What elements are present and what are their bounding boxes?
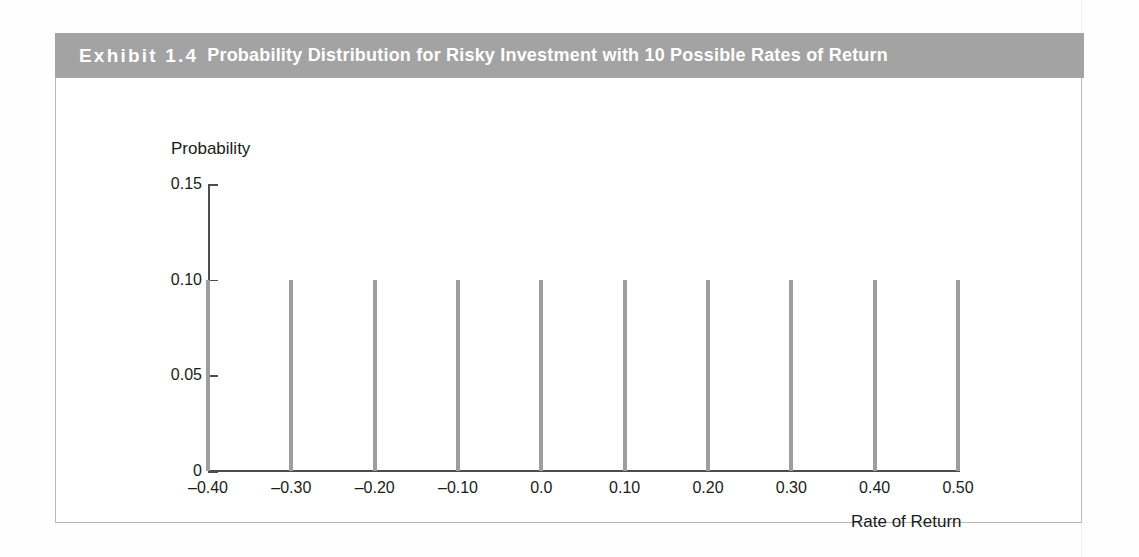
x-tick-label: 0.0	[530, 479, 552, 497]
x-tick-label: –0.10	[438, 479, 478, 497]
bar	[206, 280, 210, 471]
bar	[539, 280, 543, 471]
y-tick-label: 0.10	[144, 271, 202, 289]
bar	[873, 280, 877, 471]
y-tick-label: 0.15	[144, 175, 202, 193]
x-tick-label: –0.20	[355, 479, 395, 497]
bar	[706, 280, 710, 471]
bar-series	[208, 184, 968, 471]
bar	[956, 280, 960, 471]
exhibit-box: Exhibit 1.4 Probability Distribution for…	[55, 33, 1082, 523]
y-axis-label: Probability	[171, 139, 250, 159]
exhibit-header-bar: Exhibit 1.4 Probability Distribution for…	[55, 33, 1084, 78]
exhibit-number: Exhibit 1.4	[79, 45, 198, 67]
y-tick-mark	[208, 471, 218, 473]
x-tick-label: –0.30	[271, 479, 311, 497]
x-tick-label: 0.40	[859, 479, 890, 497]
x-tick-label: 0.20	[692, 479, 723, 497]
y-tick-label: 0	[144, 462, 202, 480]
x-tick-label: 0.50	[942, 479, 973, 497]
bar	[373, 280, 377, 471]
y-tick-label: 0.05	[144, 366, 202, 384]
chart-plot-area: Probability Rate of Return 00.050.100.15…	[56, 79, 1081, 522]
bar	[623, 280, 627, 471]
x-tick-label: –0.40	[188, 479, 228, 497]
exhibit-title: Probability Distribution for Risky Inves…	[207, 45, 888, 66]
x-axis-label: Rate of Return	[851, 512, 962, 532]
bar	[789, 280, 793, 471]
x-tick-label: 0.10	[609, 479, 640, 497]
bar	[289, 280, 293, 471]
x-tick-label: 0.30	[776, 479, 807, 497]
bar	[456, 280, 460, 471]
